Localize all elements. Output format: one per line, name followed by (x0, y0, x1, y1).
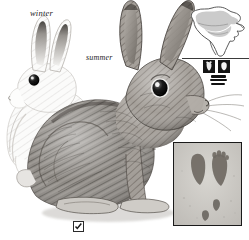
map-divider-rule (182, 58, 249, 59)
north-america-range-map (184, 2, 246, 58)
track-icon-row (203, 60, 233, 73)
label-summer: summer (86, 54, 113, 62)
scat-icon (209, 74, 227, 87)
front-track-icon (218, 60, 230, 73)
track-photo-inset (173, 142, 242, 226)
whiskers (203, 95, 244, 131)
field-guide-plate: winter summer (0, 0, 249, 240)
label-winter: winter (30, 9, 53, 18)
species-checkbox[interactable] (73, 221, 84, 232)
sign-icon-group (203, 60, 233, 87)
hind-track-icon (203, 60, 215, 73)
